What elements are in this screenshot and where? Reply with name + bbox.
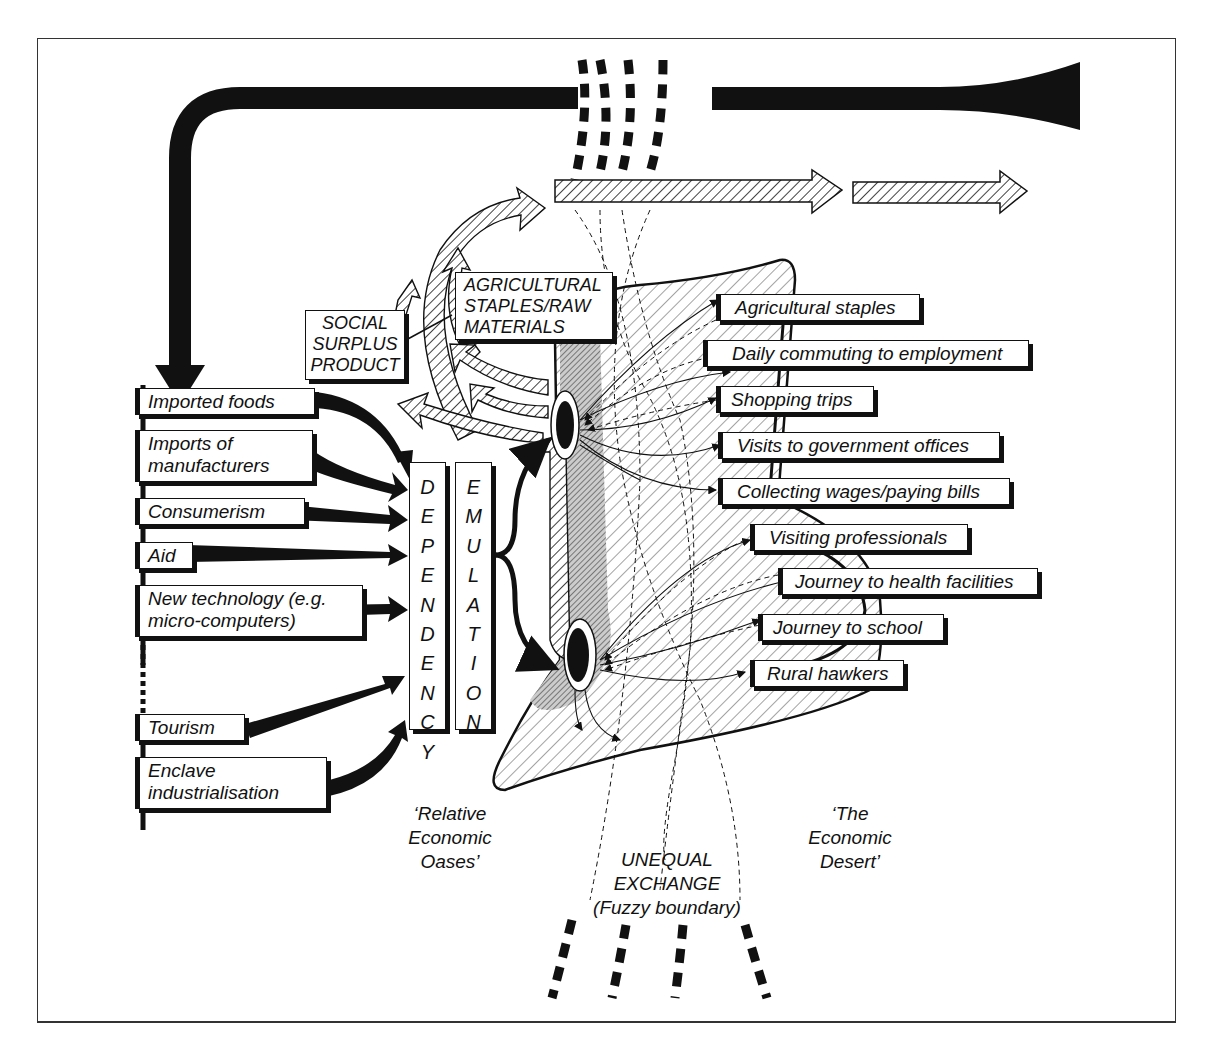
box-label-line2: industrialisation: [148, 782, 318, 804]
line: MATERIALS: [464, 317, 604, 338]
box-label-line1: New technology (e.g.: [148, 588, 354, 610]
letter: N: [456, 708, 491, 737]
desert-label: ‘The Economic Desert’: [800, 802, 900, 874]
oases-label: ‘Relative Economic Oases’: [400, 802, 500, 874]
box-journey-school: Journey to school: [758, 614, 944, 641]
box-imports-manufacturers: Imports of manufacturers: [135, 430, 313, 482]
box-label: Imported foods: [148, 391, 275, 412]
line: STAPLES/RAW: [464, 296, 604, 317]
box-aid: Aid: [135, 542, 193, 569]
letter: A: [456, 591, 491, 620]
line: PRODUCT: [310, 355, 400, 376]
letter: P: [410, 532, 445, 561]
dependency-box: D E P E N D E N C Y: [409, 462, 446, 730]
box-label: Agricultural staples: [735, 297, 896, 318]
box-consumerism: Consumerism: [135, 498, 305, 525]
top-dashed-curves: [575, 60, 663, 180]
letter: M: [456, 502, 491, 531]
letter: L: [456, 561, 491, 590]
box-label: Collecting wages/paying bills: [737, 481, 980, 502]
line: SURPLUS: [310, 334, 400, 355]
box-label-line1: Imports of: [148, 433, 304, 455]
emulation-box: E M U L A T I O N: [455, 462, 492, 730]
line: ‘The: [800, 802, 900, 826]
box-visiting-professionals: Visiting professionals: [750, 524, 968, 551]
box-new-technology: New technology (e.g. micro-computers): [135, 585, 363, 637]
line: UNEQUAL: [572, 848, 762, 872]
agri-raw-box: AGRICULTURAL STAPLES/RAW MATERIALS: [455, 272, 613, 340]
line: EXCHANGE: [572, 872, 762, 896]
line: Economic: [400, 826, 500, 850]
line: Economic: [800, 826, 900, 850]
box-health-facilities: Journey to health facilities: [778, 568, 1038, 595]
box-label: Consumerism: [148, 501, 265, 522]
box-rural-hawkers: Rural hawkers: [750, 660, 904, 687]
line: Desert’: [800, 850, 900, 874]
box-label: Shopping trips: [731, 389, 852, 410]
box-label-line2: manufacturers: [148, 455, 304, 477]
box-shopping-trips: Shopping trips: [716, 386, 874, 413]
box-agricultural-staples: Agricultural staples: [716, 294, 920, 321]
box-label: Journey to school: [773, 617, 922, 638]
box-label-line2: micro-computers): [148, 610, 354, 632]
line: AGRICULTURAL: [464, 275, 604, 296]
letter: I: [456, 649, 491, 678]
box-label: Visits to government offices: [737, 435, 969, 456]
box-enclave-industrialisation: Enclave industrialisation: [135, 757, 327, 809]
bottom-dashed-curves: [552, 920, 767, 998]
letter: U: [456, 532, 491, 561]
letter: C: [410, 708, 445, 737]
box-label: Rural hawkers: [767, 663, 888, 684]
box-label: Visiting professionals: [769, 527, 947, 548]
box-label: Journey to health facilities: [795, 571, 1014, 592]
emulation-brace: [495, 440, 555, 668]
letter: D: [410, 620, 445, 649]
social-surplus-box: SOCIAL SURPLUS PRODUCT: [305, 310, 405, 380]
box-government-offices: Visits to government offices: [718, 432, 1000, 459]
box-tourism: Tourism: [135, 714, 245, 741]
letter: O: [456, 679, 491, 708]
letter: N: [410, 679, 445, 708]
box-label: Tourism: [148, 717, 215, 738]
letter: E: [410, 561, 445, 590]
line: (Fuzzy boundary): [572, 896, 762, 920]
letter: D: [410, 473, 445, 502]
letter: E: [410, 502, 445, 531]
box-imported-foods: Imported foods: [135, 388, 315, 415]
letter: N: [410, 591, 445, 620]
box-label: Aid: [148, 545, 175, 566]
box-daily-commuting: Daily commuting to employment: [703, 340, 1029, 367]
box-label: Daily commuting to employment: [732, 343, 1002, 364]
unequal-exchange-label: UNEQUAL EXCHANGE (Fuzzy boundary): [572, 848, 762, 920]
letter: T: [456, 620, 491, 649]
line: SOCIAL: [310, 313, 400, 334]
box-collecting-wages: Collecting wages/paying bills: [718, 478, 1010, 505]
box-label-line1: Enclave: [148, 760, 318, 782]
hatched-flow-arrows: [555, 170, 1027, 213]
letter: Y: [410, 738, 445, 767]
letter: E: [456, 473, 491, 502]
line: ‘Relative: [400, 802, 500, 826]
letter: E: [410, 649, 445, 678]
line: Oases’: [400, 850, 500, 874]
